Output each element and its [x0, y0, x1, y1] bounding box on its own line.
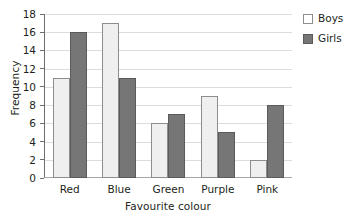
y-axis-tick-label: 2 — [29, 154, 36, 166]
legend-label: Boys — [318, 12, 343, 25]
bar-group — [193, 14, 242, 178]
y-axis-tick-label: 8 — [29, 99, 36, 111]
y-axis-tick-label: 4 — [29, 136, 36, 148]
bar-group — [144, 14, 193, 178]
x-axis-tick-label: Purple — [193, 181, 242, 197]
y-axis-tick-label: 16 — [23, 26, 36, 38]
bar-red-boys — [53, 78, 70, 178]
legend-item-boys: Boys — [303, 12, 359, 25]
y-axis-tick: 14 — [0, 44, 44, 56]
bar-group — [243, 14, 292, 178]
x-axis-tick-label: Pink — [243, 181, 292, 197]
x-axis-tick-label: Red — [45, 181, 94, 197]
x-axis-tick-labels: RedBlueGreenPurplePink — [45, 181, 292, 197]
bar-green-girls — [168, 114, 185, 178]
bars-layer — [45, 14, 292, 178]
bar-pink-boys — [250, 160, 267, 178]
legend-swatch-girls — [303, 34, 313, 44]
bar-green-boys — [151, 123, 168, 178]
bar-purple-girls — [218, 132, 235, 178]
y-axis-tick: 4 — [0, 136, 44, 148]
bar-chart: Frequency 024681012141618 RedBlueGreenPu… — [0, 0, 359, 220]
y-axis-tick: 0 — [0, 172, 44, 184]
y-axis-tick-label: 0 — [29, 172, 36, 184]
y-axis-tick: 8 — [0, 99, 44, 111]
bar-red-girls — [70, 32, 87, 178]
y-axis-tick-label: 18 — [23, 8, 36, 20]
y-axis-tick: 12 — [0, 63, 44, 75]
y-axis-tick: 10 — [0, 81, 44, 93]
bar-group — [45, 14, 94, 178]
legend: BoysGirls — [303, 12, 359, 52]
y-axis-tick-label: 14 — [23, 44, 36, 56]
y-axis-tick-label: 12 — [23, 63, 36, 75]
bar-blue-boys — [102, 23, 119, 178]
bar-group — [94, 14, 143, 178]
bar-blue-girls — [119, 78, 136, 178]
y-axis-tick-label: 10 — [23, 81, 36, 93]
legend-item-girls: Girls — [303, 32, 359, 45]
legend-label: Girls — [318, 32, 342, 45]
y-axis-tick: 6 — [0, 117, 44, 129]
y-axis-tick-label: 6 — [29, 117, 36, 129]
legend-swatch-boys — [303, 14, 313, 24]
x-axis-title: Favourite colour — [44, 199, 292, 213]
y-axis-tick: 16 — [0, 26, 44, 38]
y-axis-tick: 18 — [0, 8, 44, 20]
bar-pink-girls — [267, 105, 284, 178]
gridline — [45, 178, 292, 179]
y-axis-ticks: 024681012141618 — [0, 14, 44, 178]
y-axis-tick: 2 — [0, 154, 44, 166]
x-axis-tick-label: Blue — [94, 181, 143, 197]
bar-purple-boys — [201, 96, 218, 178]
x-axis-tick-label: Green — [144, 181, 193, 197]
